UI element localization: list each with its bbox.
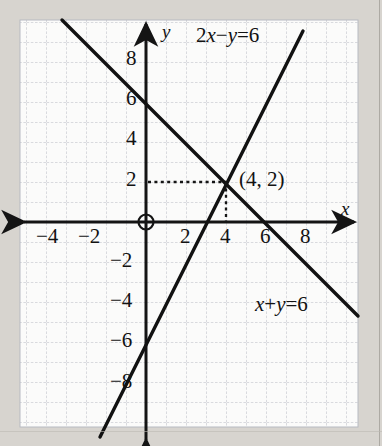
y-tick-label-6: 6 <box>126 88 137 109</box>
graph-figure: y x 2x−y=6 x+y=6 (4, 2) −4 −2 2 4 6 8 8 … <box>0 0 382 446</box>
y-tick-label-8: 8 <box>126 48 137 69</box>
y-tick-label-2: 2 <box>126 169 137 190</box>
x-tick-label-4: 4 <box>220 226 231 247</box>
x-tick-label-6: 6 <box>260 226 271 247</box>
graph-canvas <box>0 0 382 446</box>
x-tick-label--4: −4 <box>36 226 58 247</box>
y-tick-label--4: −4 <box>110 290 132 311</box>
page-edge-bottom <box>0 431 382 432</box>
equation-label-2x-minus-y: 2x−y=6 <box>196 25 259 46</box>
x-axis-label: x <box>341 199 349 218</box>
equation-label-x-plus-y: x+y=6 <box>255 294 308 315</box>
y-tick-label--8: −8 <box>110 371 132 392</box>
x-tick-label-2: 2 <box>180 226 191 247</box>
y-tick-label--2: −2 <box>110 250 132 271</box>
x-tick-label-8: 8 <box>300 226 311 247</box>
x-tick-label--2: −2 <box>78 226 100 247</box>
y-tick-label--6: −6 <box>110 330 132 351</box>
y-tick-label-4: 4 <box>126 128 137 149</box>
solution-point-label: (4, 2) <box>239 169 285 190</box>
y-axis-label: y <box>162 22 170 41</box>
page-edge-right <box>379 0 380 446</box>
